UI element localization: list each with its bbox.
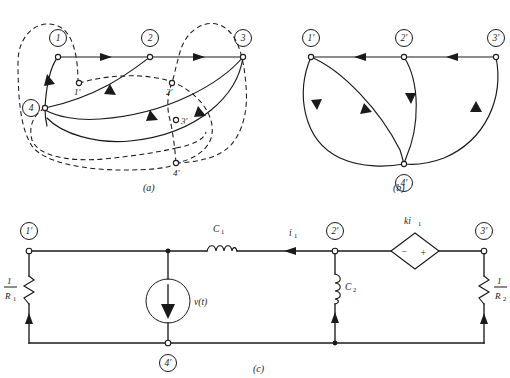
node-2-terminal bbox=[147, 54, 152, 59]
circuit-junctions bbox=[166, 249, 338, 346]
resistor-right: 1 R 2 bbox=[479, 276, 507, 324]
node-4-label: 4 bbox=[29, 103, 34, 113]
resistor-left-numerator: 1 bbox=[7, 276, 12, 286]
node-1-prime-b-label: 1' bbox=[308, 33, 316, 43]
panel-a-solid-branches bbox=[45, 57, 243, 142]
resistor-left-arrow bbox=[25, 313, 33, 324]
node-3-prime: 3' bbox=[173, 116, 188, 126]
capacitor-c2-label: C bbox=[345, 282, 352, 292]
node-4-terminal bbox=[42, 105, 47, 110]
caption-panel-a: (a) bbox=[143, 182, 155, 193]
panel-b-arrowheads bbox=[311, 53, 482, 114]
node-2-prime-b: 2' bbox=[396, 30, 413, 60]
node-3-label: 3 bbox=[240, 33, 246, 43]
node-3-prime-c: 3' bbox=[476, 223, 493, 254]
panel-a-arrowheads bbox=[44, 53, 206, 121]
node-2-prime: 2' bbox=[166, 80, 175, 97]
node-1-label: 1 bbox=[56, 33, 61, 43]
panel-a-dashed-curves bbox=[18, 24, 246, 170]
node-2-prime-b-label: 2' bbox=[401, 33, 409, 43]
branch-current: i 1 bbox=[284, 228, 297, 255]
node-4-prime-label: 4' bbox=[173, 168, 181, 178]
panel-b-graph: 1' 2' 3' 4' bbox=[280, 0, 510, 200]
resistor-right-subscript: 2 bbox=[503, 295, 506, 302]
node-1-prime-c-label: 1' bbox=[26, 226, 34, 236]
node-2-prime-c-label: 2' bbox=[332, 226, 340, 236]
dependent-source-subscript: 1 bbox=[418, 220, 421, 227]
node-2: 2 bbox=[142, 30, 159, 60]
resistor-right-denominator: R bbox=[494, 291, 501, 301]
caption-panel-c: (c) bbox=[253, 363, 264, 374]
panel-a-graph: 1 2 3 4 1' bbox=[0, 0, 280, 200]
node-3-prime-b: 3' bbox=[488, 30, 505, 60]
node-1-prime-label: 1' bbox=[74, 87, 82, 97]
panel-b-branches bbox=[303, 57, 497, 166]
circuit-wires bbox=[29, 251, 484, 343]
node-4: 4 bbox=[23, 100, 48, 117]
circuit-nodes: 1' 2' 3' 4' bbox=[21, 223, 493, 372]
node-2-prime-c: 2' bbox=[327, 223, 344, 254]
current-source-arrow bbox=[161, 304, 175, 319]
dependent-source-plus: + bbox=[420, 248, 426, 258]
node-3-prime-label: 3' bbox=[180, 116, 189, 126]
resistor-left-denominator: R bbox=[4, 291, 11, 301]
capacitor-c1: C 1 bbox=[207, 224, 237, 251]
node-3-prime-c-label: 3' bbox=[480, 226, 489, 236]
node-3: 3 bbox=[235, 30, 252, 60]
node-1-prime-c: 1' bbox=[21, 223, 38, 254]
node-2-label: 2 bbox=[148, 33, 153, 43]
node-1-terminal bbox=[55, 54, 60, 59]
current-source-label: v(t) bbox=[194, 297, 207, 308]
capacitor-c2-arrow bbox=[331, 312, 339, 323]
node-1: 1 bbox=[50, 30, 67, 60]
capacitor-c1-subscript: 1 bbox=[221, 228, 224, 235]
branch-current-arrow bbox=[284, 247, 296, 255]
dependent-source: − + ki 1 bbox=[391, 216, 439, 269]
current-source: v(t) bbox=[146, 279, 207, 323]
resistor-right-arrow bbox=[480, 313, 488, 324]
resistor-right-numerator: 1 bbox=[497, 276, 502, 286]
node-3-prime-b-label: 3' bbox=[492, 33, 501, 43]
branch-current-label: i bbox=[289, 228, 292, 238]
node-1-prime-b: 1' bbox=[303, 30, 320, 60]
resistor-left: 1 R 1 bbox=[4, 276, 34, 324]
node-4-prime-c-label: 4' bbox=[165, 358, 173, 368]
dependent-source-label: ki bbox=[404, 216, 411, 226]
capacitor-c1-label: C bbox=[213, 224, 220, 234]
capacitor-c2-subscript: 2 bbox=[353, 286, 356, 293]
node-2-prime-label: 2' bbox=[166, 87, 174, 97]
capacitor-c2: C 2 bbox=[331, 274, 356, 323]
node-3-terminal bbox=[240, 54, 245, 59]
resistor-left-subscript: 1 bbox=[13, 295, 16, 302]
figure-root: 1 2 3 4 1' bbox=[0, 0, 510, 378]
node-1-prime: 1' bbox=[74, 80, 82, 97]
branch-current-subscript: 1 bbox=[294, 232, 297, 239]
node-4-prime-c: 4' bbox=[160, 340, 177, 371]
panel-c-circuit: 1 R 1 1 R 2 C 1 C 2 bbox=[0, 200, 510, 378]
dependent-source-minus: − bbox=[401, 247, 407, 257]
caption-panel-b: (b) bbox=[393, 182, 405, 193]
panel-a-nodes: 1 2 3 4 1' bbox=[23, 30, 252, 179]
